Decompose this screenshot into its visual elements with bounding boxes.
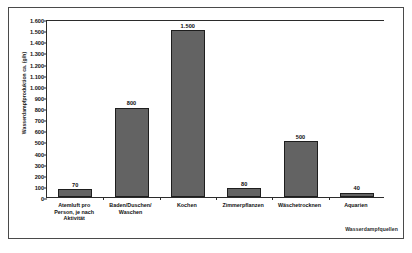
y-axis-tick-label: 100 <box>10 185 44 191</box>
x-axis-tick-mark <box>272 197 273 200</box>
x-axis-category-label: Atemluft proPerson, je nachAktivität <box>46 202 102 222</box>
x-axis-category-line: Baden/Duschen/ <box>102 202 158 209</box>
x-axis-category-line: Atemluft pro <box>46 202 102 209</box>
bar-value-label: 40 <box>354 185 360 191</box>
bar-rect[interactable] <box>340 193 374 197</box>
y-axis-tick-label: 900 <box>10 96 44 102</box>
x-axis-category-label: Aquarien <box>328 202 384 209</box>
y-axis-tick-mark <box>44 165 47 166</box>
y-axis-tick-mark <box>44 199 47 200</box>
x-axis-tick-mark <box>216 197 217 200</box>
y-axis-tick-label: 800 <box>10 107 44 113</box>
bar-value-label: 80 <box>241 181 247 187</box>
x-axis-category-line: Aktivität <box>46 215 102 222</box>
bar-column[interactable]: 500 <box>284 134 318 197</box>
bar-column[interactable]: 40 <box>340 185 374 197</box>
bar-column[interactable]: 800 <box>115 100 149 197</box>
y-axis-tick-mark <box>44 110 47 111</box>
y-axis-tick-label: 1.300 <box>10 51 44 57</box>
y-axis-tick-mark <box>44 121 47 122</box>
x-axis-tick-mark <box>160 197 161 200</box>
bar-value-label: 1.500 <box>181 23 196 29</box>
y-axis-tick-mark <box>44 54 47 55</box>
bar-rect[interactable] <box>115 108 149 197</box>
y-axis-tick-mark <box>44 87 47 88</box>
x-axis-category-label: Baden/Duschen/Waschen <box>102 202 158 215</box>
bar-rect[interactable] <box>171 30 205 197</box>
bar-column[interactable]: 1.500 <box>171 23 205 197</box>
y-axis-tick-mark <box>44 32 47 33</box>
y-axis-tick-label: 1.400 <box>10 40 44 46</box>
x-axis-category-line: Person, je nach <box>46 209 102 216</box>
bar-value-label: 800 <box>127 100 137 106</box>
bar-column[interactable]: 80 <box>227 181 261 197</box>
bar-rect[interactable] <box>284 141 318 197</box>
y-axis-tick-label: 400 <box>10 152 44 158</box>
x-axis-category-line: Kochen <box>159 202 215 209</box>
y-axis-tick-mark <box>44 132 47 133</box>
y-axis-tick-mark <box>44 187 47 188</box>
x-axis-category-line: Aquarien <box>328 202 384 209</box>
y-axis-tick-label: 1.600 <box>10 18 44 24</box>
y-axis-tick-mark <box>44 21 47 22</box>
y-axis-tick-label: 700 <box>10 118 44 124</box>
y-axis-tick-label: 0 <box>10 196 44 202</box>
y-axis-tick-label: 1.100 <box>10 74 44 80</box>
y-axis-tick-label: 300 <box>10 163 44 169</box>
y-axis-tick-mark <box>44 65 47 66</box>
x-axis-category-label: Wäschetrocknen <box>271 202 327 209</box>
y-axis-tick-mark <box>44 98 47 99</box>
bar-value-label: 70 <box>72 182 78 188</box>
y-axis-tick-label: 1.200 <box>10 63 44 69</box>
y-axis-tick-mark <box>44 143 47 144</box>
y-axis-tick-label: 200 <box>10 174 44 180</box>
x-axis-category-line: Waschen <box>102 209 158 216</box>
y-axis-tick-label: 1.500 <box>10 29 44 35</box>
y-axis-tick-label: 500 <box>10 140 44 146</box>
x-axis-category-label: Zimmerpflanzen <box>215 202 271 209</box>
y-axis-tick-label: 1.000 <box>10 85 44 91</box>
x-axis-category-line: Wäschetrocknen <box>271 202 327 209</box>
y-axis-tick-mark <box>44 176 47 177</box>
x-axis-category-line: Zimmerpflanzen <box>215 202 271 209</box>
y-axis-tick-mark <box>44 154 47 155</box>
bar-column[interactable]: 70 <box>58 182 92 197</box>
bar-rect[interactable] <box>58 189 92 197</box>
x-axis-title: Wasserdampfquellen <box>345 226 398 232</box>
y-axis-tick-mark <box>44 43 47 44</box>
bar-rect[interactable] <box>227 188 261 197</box>
x-axis-tick-mark <box>329 197 330 200</box>
y-axis-tick-mark <box>44 76 47 77</box>
x-axis-category-label: Kochen <box>159 202 215 209</box>
plot-area: 1.6001.5001.4001.3001.2001.1001.00090080… <box>46 20 384 198</box>
y-axis-tick-label: 600 <box>10 129 44 135</box>
chart-screenshot: Wasserdampfproduktion ca. (g/h) 1.6001.5… <box>0 0 412 253</box>
bar-value-label: 500 <box>296 134 306 140</box>
x-axis-tick-mark <box>103 197 104 200</box>
